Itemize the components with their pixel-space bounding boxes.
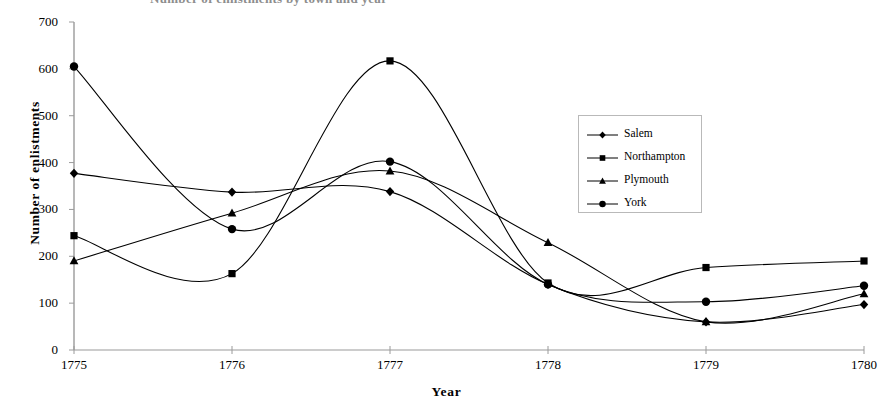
- series-line: [74, 67, 864, 303]
- legend-marker-triangle-icon: [586, 173, 619, 185]
- data-point-square-icon: [600, 155, 606, 161]
- data-point-circle-icon: [70, 62, 78, 70]
- data-point-square-icon: [386, 57, 393, 64]
- series-northampton: [70, 57, 867, 295]
- series-york: [70, 62, 868, 306]
- data-point-square-icon: [702, 264, 709, 271]
- legend-item-plymouth: Plymouth: [579, 167, 701, 190]
- legend-label: Salem: [624, 127, 653, 139]
- data-point-diamond-icon: [70, 169, 78, 178]
- legend-label: Northampton: [624, 150, 685, 162]
- legend-item-northampton: Northampton: [579, 144, 701, 167]
- data-point-circle-icon: [599, 200, 606, 207]
- data-point-diamond-icon: [386, 187, 394, 196]
- data-point-triangle-icon: [544, 238, 553, 246]
- data-point-circle-icon: [228, 225, 236, 233]
- data-point-circle-icon: [386, 157, 394, 165]
- series-plymouth: [70, 166, 869, 325]
- chart-figure: Number of enlistments by town and year N…: [0, 0, 893, 417]
- legend-item-york: York: [579, 190, 701, 213]
- data-point-square-icon: [860, 257, 867, 264]
- legend-label: York: [624, 196, 646, 208]
- legend-marker-diamond-icon: [586, 127, 619, 139]
- data-point-circle-icon: [860, 282, 868, 290]
- data-point-triangle-icon: [860, 289, 869, 297]
- data-point-circle-icon: [544, 280, 552, 288]
- data-point-square-icon: [228, 270, 235, 277]
- data-point-circle-icon: [702, 298, 710, 306]
- legend-marker-square-icon: [586, 150, 619, 162]
- legend-label: Plymouth: [624, 173, 669, 185]
- legend-item-salem: Salem: [579, 121, 701, 144]
- data-point-diamond-icon: [599, 131, 606, 138]
- legend-marker-circle-icon: [586, 196, 619, 208]
- data-point-square-icon: [70, 232, 77, 239]
- plot-area: [0, 0, 893, 417]
- data-point-diamond-icon: [860, 300, 868, 309]
- series-salem: [70, 169, 868, 327]
- data-point-diamond-icon: [228, 187, 236, 196]
- series-line: [74, 61, 864, 296]
- chart-legend: SalemNorthamptonPlymouthYork: [578, 115, 702, 213]
